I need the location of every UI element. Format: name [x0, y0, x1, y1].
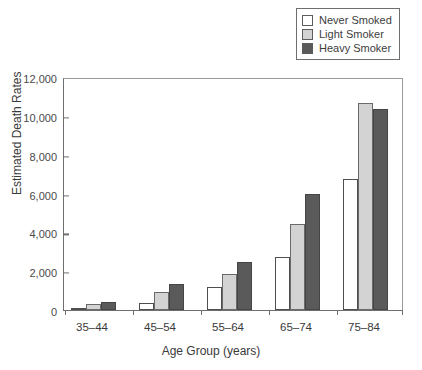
bar-group [343, 79, 388, 310]
x-axis-tick-mark [65, 310, 66, 315]
x-axis-tick-label: 45–54 [144, 321, 176, 333]
y-axis-tick-mark [64, 117, 69, 118]
bar-group [71, 79, 116, 310]
legend-swatch-light-smoker [302, 29, 313, 40]
bar-never [343, 179, 358, 310]
y-axis-tick-label: 12,000 [23, 73, 57, 85]
bar-light [222, 274, 237, 310]
legend-label-heavy-smoker: Heavy Smoker [319, 43, 391, 54]
y-axis-title: Estimated Death Rates [10, 72, 24, 195]
bar-never [207, 287, 222, 310]
bar-group [139, 79, 184, 310]
x-axis-tick-mark [201, 310, 202, 315]
y-axis-tick-mark [64, 195, 69, 196]
x-axis-tick-label: 65–74 [280, 321, 312, 333]
legend-label-light-smoker: Light Smoker [319, 29, 384, 40]
x-axis-tick-label: 55–64 [212, 321, 244, 333]
legend-swatch-never-smoked [302, 15, 313, 26]
bar-heavy [101, 302, 116, 310]
bar-heavy [169, 284, 184, 310]
y-axis-tick-label: 0 [51, 306, 57, 318]
x-axis-title: Age Group (years) [0, 344, 422, 358]
bar-group [207, 79, 252, 310]
bar-group [275, 79, 320, 310]
bar-heavy [305, 194, 320, 310]
y-axis-tick-label: 6,000 [29, 190, 57, 202]
bar-heavy [237, 262, 252, 310]
x-axis-tick-mark [402, 310, 403, 315]
bar-light [154, 292, 169, 310]
plot-area: 02,0004,0006,0008,00010,00012,00035–4445… [63, 78, 403, 311]
x-axis-tick-mark [337, 310, 338, 315]
y-axis-tick-label: 10,000 [23, 112, 57, 124]
y-axis-tick-label: 2,000 [29, 267, 57, 279]
y-axis-tick-mark [64, 234, 69, 235]
bar-light [86, 304, 101, 310]
y-axis-tick-mark [64, 273, 69, 274]
y-axis-tick-mark [64, 156, 69, 157]
legend-item-heavy-smoker: Heavy Smoker [302, 41, 392, 55]
legend-swatch-heavy-smoker [302, 43, 313, 54]
bar-never [139, 303, 154, 310]
bar-never [275, 257, 290, 310]
bar-light [358, 103, 373, 310]
chart-legend: Never Smoked Light Smoker Heavy Smoker [296, 8, 400, 60]
x-axis-tick-label: 75–84 [348, 321, 380, 333]
y-axis-tick-label: 8,000 [29, 151, 57, 163]
bar-light [290, 224, 305, 310]
x-axis-tick-label: 35–44 [76, 321, 108, 333]
y-axis-tick-label: 4,000 [29, 228, 57, 240]
legend-label-never-smoked: Never Smoked [319, 15, 392, 26]
chart-container: Never Smoked Light Smoker Heavy Smoker E… [0, 0, 422, 370]
x-axis-tick-mark [269, 310, 270, 315]
x-axis-tick-mark [133, 310, 134, 315]
legend-item-never-smoked: Never Smoked [302, 13, 392, 27]
bar-heavy [373, 109, 388, 310]
legend-item-light-smoker: Light Smoker [302, 27, 392, 41]
bar-never [71, 308, 86, 310]
